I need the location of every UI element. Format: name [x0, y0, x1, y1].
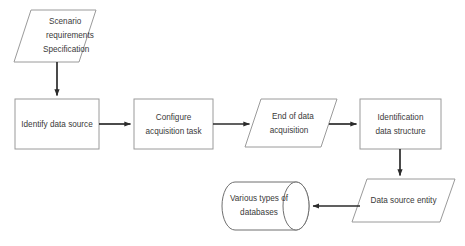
- node-data-source-entity[interactable]: Data source entity: [352, 179, 455, 222]
- node-label-line: requirements: [46, 31, 94, 40]
- node-label-line: Identify data source: [21, 120, 93, 129]
- rectangle-shape: [134, 99, 213, 149]
- node-scenario-requirements-specification[interactable]: Scenario requirements Specification: [14, 10, 96, 62]
- node-label-line: Configure: [156, 113, 192, 122]
- node-label-line: Identification: [378, 113, 424, 122]
- node-label-line: Specification: [43, 45, 90, 54]
- node-end-of-data-acquisition[interactable]: End of data acquisition: [245, 99, 337, 147]
- rectangle-shape: [360, 99, 441, 149]
- node-identification-data-structure[interactable]: Identification data structure: [360, 99, 441, 149]
- flowchart-diagram: Scenario requirements Specification Iden…: [0, 0, 465, 246]
- node-configure-acquisition-task[interactable]: Configure acquisition task: [134, 99, 213, 149]
- node-identify-data-source[interactable]: Identify data source: [15, 99, 99, 149]
- node-label-line: data structure: [375, 127, 426, 136]
- node-various-types-of-databases[interactable]: Various types of databases: [222, 182, 309, 230]
- node-label-line: Data source entity: [371, 196, 438, 205]
- parallelogram-shape: [245, 99, 337, 147]
- node-label-line: Scenario: [49, 17, 82, 26]
- node-label-line: databases: [240, 208, 278, 217]
- cylinder-cap: [283, 182, 309, 230]
- node-label-line: End of data: [272, 112, 314, 121]
- node-label-line: acquisition task: [146, 127, 203, 136]
- node-label-line: acquisition: [270, 126, 309, 135]
- node-label-line: Various types of: [230, 194, 289, 203]
